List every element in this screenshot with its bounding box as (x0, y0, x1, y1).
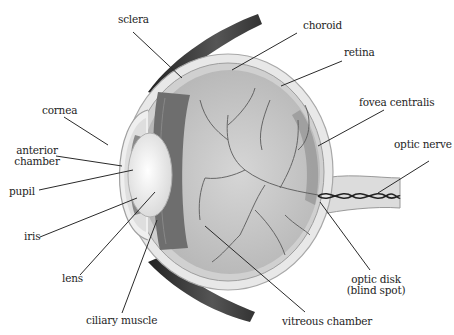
lens (128, 133, 172, 217)
label-optic-disk: optic disk (blind spot) (346, 274, 406, 296)
label-fovea-centralis: fovea centralis (359, 97, 434, 108)
label-anterior-chamber: anterior chamber (12, 145, 62, 167)
label-optic-disk-line2: (blind spot) (346, 285, 406, 296)
label-retina: retina (344, 47, 375, 58)
label-anterior-chamber-line2: chamber (12, 156, 62, 167)
label-vitreous-chamber: vitreous chamber (282, 316, 372, 327)
label-cornea: cornea (42, 105, 77, 116)
label-pupil: pupil (9, 186, 35, 197)
eye-anatomy-diagram: sclera choroid retina cornea fovea centr… (0, 0, 454, 335)
label-optic-nerve: optic nerve (394, 139, 452, 150)
label-iris: iris (24, 231, 40, 242)
label-lens: lens (62, 273, 83, 284)
label-choroid: choroid (303, 20, 342, 31)
label-ciliary-muscle: ciliary muscle (86, 315, 157, 326)
label-sclera: sclera (118, 14, 149, 25)
